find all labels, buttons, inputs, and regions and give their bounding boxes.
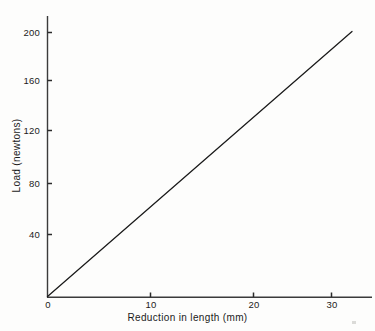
y-tick-label-40: 40 [6,229,40,240]
x-tick-marks [151,293,332,298]
chart-figure: 200 160 120 80 40 0 10 20 30 Reduction i… [0,0,375,331]
x-tick-label-20: 20 [242,299,266,310]
plot-area [0,0,375,331]
data-series-line [48,32,353,297]
x-tick-label-10: 10 [139,299,163,310]
y-tick-label-160: 160 [6,75,40,86]
scan-speck [352,321,356,324]
x-tick-label-30: 30 [320,299,344,310]
x-axis-title: Reduction in length (mm) [0,312,375,323]
x-tick-label-0: 0 [36,299,60,310]
y-tick-label-200: 200 [6,27,40,38]
y-axis-title: Load (newtons) [11,91,22,221]
